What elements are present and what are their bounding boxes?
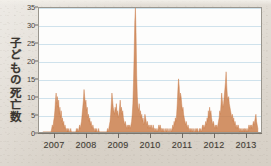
y-tick-label-30: 30 (27, 21, 35, 30)
x-tick-mark-2013 (246, 133, 247, 138)
x-tick-label-2011: 2011 (172, 140, 193, 150)
x-tick-label-2007: 2007 (43, 140, 64, 150)
x-tick-mark-2008 (86, 133, 87, 138)
x-tick-label-2012: 2012 (203, 140, 224, 150)
y-axis-tick-labels: 05101520253035 (22, 0, 38, 166)
x-tick-label-2009: 2009 (107, 140, 128, 150)
series-area-fill (43, 8, 258, 132)
x-tick-label-2010: 2010 (139, 140, 160, 150)
chart-plot-area (38, 7, 262, 133)
y-tick-label-15: 15 (27, 75, 35, 84)
y-tick-label-10: 10 (27, 93, 35, 102)
y-tick-label-25: 25 (27, 39, 35, 48)
x-tick-mark-2007 (54, 133, 55, 138)
x-tick-label-2013: 2013 (235, 140, 256, 150)
x-tick-label-2008: 2008 (75, 140, 96, 150)
child-deaths-area-series (39, 8, 261, 132)
x-tick-mark-2011 (182, 133, 183, 138)
y-axis-title: 子どもの死亡数 (6, 26, 23, 134)
x-tick-mark-2012 (214, 133, 215, 138)
y-tick-label-20: 20 (27, 57, 35, 66)
y-tick-label-35: 35 (27, 3, 35, 12)
x-tick-mark-2009 (118, 133, 119, 138)
x-tick-mark-2010 (150, 133, 151, 138)
